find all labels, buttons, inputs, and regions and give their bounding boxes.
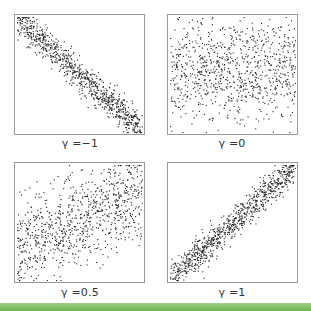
panel-label-one: γ =1 bbox=[162, 286, 302, 299]
scatter-plot-half bbox=[15, 163, 144, 282]
scatter-panel-one bbox=[167, 162, 298, 283]
scatter-plot-zero bbox=[168, 15, 297, 134]
scatter-plot-one bbox=[168, 163, 297, 282]
scatter-panel-neg1 bbox=[14, 14, 145, 135]
scatter-panel-half bbox=[14, 162, 145, 283]
panel-label-zero: γ =0 bbox=[162, 137, 302, 150]
scatter-plot-neg1 bbox=[15, 15, 144, 134]
scatter-panel-zero bbox=[167, 14, 298, 135]
panel-label-half: γ =0.5 bbox=[10, 286, 150, 299]
panel-label-neg1: γ =−1 bbox=[10, 137, 150, 150]
footer-green-band bbox=[0, 303, 311, 311]
